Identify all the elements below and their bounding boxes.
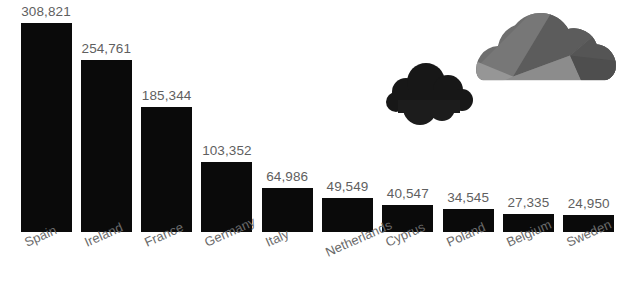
bar-value-label: 103,352 — [187, 143, 266, 158]
category-axis: SpainIrelandFranceGermanyItalyNetherland… — [0, 232, 637, 292]
bar-value-label: 24,950 — [549, 196, 628, 211]
bar-value-label: 254,761 — [67, 41, 146, 56]
bar-chart: 308,821254,761185,344103,35264,98649,549… — [0, 0, 637, 292]
bar[interactable] — [81, 60, 132, 232]
bar-value-label: 185,344 — [127, 88, 206, 103]
plot-area: 308,821254,761185,344103,35264,98649,549… — [0, 0, 637, 232]
bar-value-label: 308,821 — [7, 4, 86, 19]
bar[interactable] — [262, 188, 313, 232]
bar[interactable] — [141, 107, 192, 232]
bar[interactable] — [21, 23, 72, 232]
